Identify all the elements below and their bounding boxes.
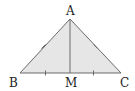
vertex-label-b: B (9, 76, 18, 90)
triangle-diagram: A B M C (0, 0, 135, 91)
vertex-label-a: A (65, 4, 75, 18)
point-label-m: M (65, 76, 77, 90)
vertex-label-c: C (120, 76, 129, 90)
